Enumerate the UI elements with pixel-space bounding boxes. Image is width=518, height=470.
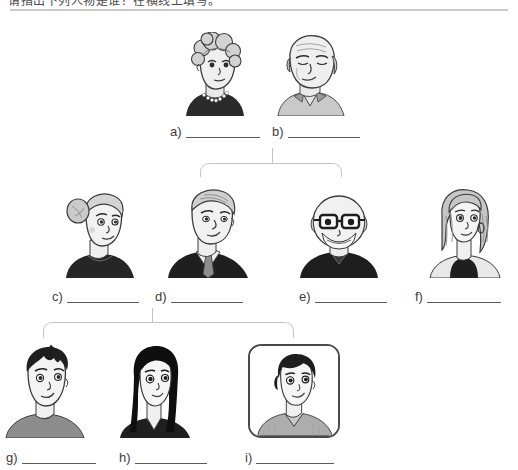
label-c-tag: c) bbox=[52, 289, 63, 304]
answer-blank-i[interactable] bbox=[256, 451, 334, 464]
connector-gen2-stem bbox=[152, 308, 153, 323]
label-f-tag: f) bbox=[415, 289, 423, 304]
label-h-tag: h) bbox=[119, 450, 131, 465]
label-i-tag: i) bbox=[245, 450, 252, 465]
label-g-tag: g) bbox=[6, 450, 18, 465]
label-h: h) bbox=[119, 450, 207, 465]
answer-blank-h[interactable] bbox=[135, 451, 207, 464]
portrait-d-father bbox=[164, 186, 252, 278]
label-d: d) bbox=[155, 289, 243, 304]
portrait-e-uncle bbox=[296, 186, 382, 278]
label-e: e) bbox=[299, 289, 387, 304]
label-a-tag: a) bbox=[170, 124, 182, 139]
answer-blank-c[interactable] bbox=[67, 290, 139, 303]
answer-blank-f[interactable] bbox=[427, 290, 501, 303]
connector-gen1-stem bbox=[272, 148, 273, 164]
label-g: g) bbox=[6, 450, 96, 465]
portrait-h-sister bbox=[110, 340, 198, 438]
label-b-tag: b) bbox=[272, 124, 284, 139]
label-c: c) bbox=[52, 289, 139, 304]
answer-blank-e[interactable] bbox=[315, 290, 387, 303]
label-f: f) bbox=[415, 289, 501, 304]
portrait-i-child-framed[interactable] bbox=[248, 344, 340, 438]
label-i: i) bbox=[245, 450, 334, 465]
instruction-text: 请指出下列人物是谁？在横线上填写。 bbox=[8, 0, 221, 8]
answer-blank-g[interactable] bbox=[22, 451, 96, 464]
portrait-g-brother bbox=[2, 340, 90, 438]
portrait-c-aunt bbox=[58, 188, 138, 278]
label-d-tag: d) bbox=[155, 289, 167, 304]
label-b: b) bbox=[272, 124, 360, 139]
instruction-strip: 请指出下列人物是谁？在横线上填写。 bbox=[0, 0, 518, 9]
portrait-a-grandmother bbox=[180, 32, 250, 116]
portrait-f-mother bbox=[424, 186, 504, 278]
connector-gen2-bracket bbox=[43, 322, 294, 338]
worksheet-page: 请指出下列人物是谁？在横线上填写。 bbox=[0, 0, 518, 470]
answer-blank-d[interactable] bbox=[171, 290, 243, 303]
answer-blank-b[interactable] bbox=[288, 125, 360, 138]
portrait-b-grandfather bbox=[268, 30, 348, 116]
label-a: a) bbox=[170, 124, 260, 139]
header-divider bbox=[10, 9, 508, 11]
connector-gen1-bracket bbox=[200, 163, 342, 177]
answer-blank-a[interactable] bbox=[186, 125, 260, 138]
label-e-tag: e) bbox=[299, 289, 311, 304]
